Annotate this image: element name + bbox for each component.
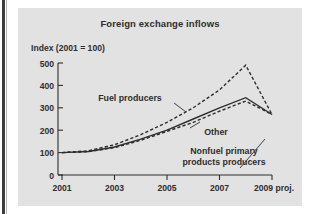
x-tick-label-2005: 2005: [157, 183, 176, 193]
x-tick-label-2007: 2007: [210, 183, 229, 193]
y-tick-label-200: 200: [40, 126, 55, 136]
y-tick-label-400: 400: [40, 81, 55, 91]
chart-plot: 500 400 300 200 100 0 2001 2003 2005 200…: [0, 0, 310, 214]
y-axis-ticks: [58, 63, 63, 175]
y-tick-label-300: 300: [40, 103, 55, 113]
series-line-fuel-producers: [62, 65, 272, 152]
y-tick-label-100: 100: [40, 148, 55, 158]
x-tick-label-2003: 2003: [105, 183, 124, 193]
x-axis-ticks: [62, 175, 272, 180]
y-tick-label-500: 500: [40, 59, 55, 69]
series-label-fuel-producers: Fuel producers: [98, 93, 162, 103]
y-tick-label-0: 0: [49, 171, 54, 181]
series-label-other: Other: [204, 127, 228, 137]
series-label-nonfuel-line1: Nonfuel primary: [190, 146, 258, 156]
figure-root: Foreign exchange inflows Index (2001 = 1…: [0, 0, 310, 214]
x-tick-label-2001: 2001: [52, 183, 71, 193]
x-tick-label-2009-proj: 2009 proj.: [254, 183, 294, 193]
series-line-other: [62, 98, 272, 153]
leader-line-other: [190, 122, 200, 128]
series-line-nonfuel-primary-products-producers: [62, 101, 272, 153]
leader-line-fuel-producers: [174, 103, 186, 112]
series-label-nonfuel-line2: products producers: [182, 157, 265, 167]
